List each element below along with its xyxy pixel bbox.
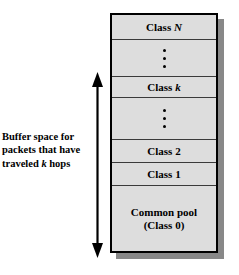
caption-variable-k: k <box>41 158 46 169</box>
caption-line-3: traveled k hops <box>2 157 86 170</box>
buffer-cell-class-k-label: Class k <box>147 81 180 94</box>
buffer-cell-class-1[interactable]: Class 1 <box>112 163 216 186</box>
class-k-variable: k <box>175 81 181 93</box>
buffer-cell-ellipsis-upper <box>112 40 216 77</box>
ellipsis-dot <box>163 125 166 128</box>
ellipsis-dot <box>163 57 166 60</box>
buffer-cell-class-1-label: Class 1 <box>147 168 180 181</box>
double-headed-vertical-arrow <box>88 72 107 258</box>
caption-line-1: Buffer space for <box>2 130 86 143</box>
buffer-cell-class-n[interactable]: Class N <box>112 15 216 40</box>
common-pool-subtitle: (Class 0) <box>131 219 197 232</box>
buffer-class-allocation-diagram: Buffer space for packets that have trave… <box>0 0 239 275</box>
ellipsis-dot <box>163 109 166 112</box>
buffer-class-stack: Class N Class k Class 2 Class 1 Common p… <box>110 13 218 253</box>
ellipsis-dot <box>163 65 166 68</box>
buffer-cell-class-n-label: Class N <box>146 21 182 34</box>
buffer-cell-common-pool[interactable]: Common pool (Class 0) <box>112 186 216 251</box>
ellipsis-dot <box>163 49 166 52</box>
buffer-cell-common-pool-label: Common pool (Class 0) <box>131 206 197 232</box>
common-pool-title: Common pool <box>131 206 197 218</box>
buffer-cell-class-2-label: Class 2 <box>147 145 180 158</box>
ellipsis-dot <box>163 117 166 120</box>
class-n-variable: N <box>174 21 182 33</box>
buffer-cell-class-2[interactable]: Class 2 <box>112 140 216 163</box>
buffer-cell-ellipsis-lower <box>112 98 216 140</box>
caption-line-2: packets that have <box>2 143 86 156</box>
buffer-cell-class-k[interactable]: Class k <box>112 77 216 98</box>
buffer-space-caption: Buffer space for packets that have trave… <box>2 130 86 170</box>
